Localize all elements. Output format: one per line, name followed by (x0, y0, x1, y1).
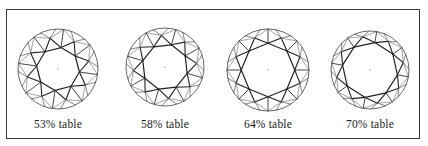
upper-girdle-edge (52, 100, 66, 109)
table-edge (347, 86, 365, 97)
diamond-53-table (18, 29, 98, 109)
upper-girdle-edge (50, 29, 64, 38)
star-facet-edge (185, 56, 196, 64)
bezel-facet-edge (176, 87, 184, 101)
star-facet-edge (27, 66, 36, 77)
table-edge (37, 52, 45, 66)
star-facet-edge (236, 70, 241, 83)
star-facet-edge (55, 90, 66, 99)
star-facet-edge (365, 97, 377, 103)
upper-girdle-edge (245, 36, 255, 38)
star-facet-edge (341, 52, 342, 65)
bezel-facet-edge (287, 89, 297, 99)
star-facet-edge (397, 63, 403, 75)
star-facet-edge (31, 52, 45, 53)
table-edge (386, 75, 397, 93)
star-facet-edge (268, 38, 281, 43)
star-facet-edge (255, 38, 268, 43)
star-facet-edge (45, 38, 50, 51)
label-53-table: 53% table (8, 118, 108, 130)
star-facet-edge (71, 85, 85, 86)
star-facet-edge (61, 42, 74, 48)
table-edge (75, 56, 79, 72)
upper-girdle-edge (18, 71, 27, 77)
upper-girdle-edge (89, 61, 98, 67)
upper-girdle-edge (60, 100, 66, 109)
upper-girdle-edge (28, 42, 31, 53)
bezel-facet-edge (52, 90, 55, 108)
bezel-facet-edge (146, 33, 154, 47)
bezel-facet-edge (375, 32, 377, 43)
bezel-facet-edge (171, 30, 175, 45)
star-facet-edge (42, 90, 55, 96)
upper-girdle-edge (89, 61, 98, 75)
upper-girdle-edge (377, 103, 385, 106)
upper-girdle-edge (334, 77, 337, 85)
center-dot (267, 69, 268, 70)
upper-girdle-edge (50, 29, 56, 38)
star-facet-edge (66, 86, 71, 99)
star-facet-edge (255, 97, 268, 102)
bezel-facet-edge (397, 75, 408, 77)
star-facet-edge (169, 87, 177, 98)
upper-girdle-edge (85, 85, 88, 96)
bezel-facet-edge (26, 82, 41, 93)
star-facet-edge (41, 82, 42, 96)
upper-girdle-edge (363, 103, 377, 108)
upper-girdle-edge (363, 32, 377, 37)
bezel-facet-edge (386, 93, 392, 102)
upper-girdle-edge (245, 102, 255, 104)
table-edge (55, 86, 71, 90)
upper-girdle-edge (354, 34, 362, 37)
table-edge (375, 43, 393, 54)
table-edge (45, 48, 61, 52)
star-facet-edge (27, 77, 40, 82)
upper-girdle-edge (234, 47, 236, 57)
bezel-facet-edge (393, 48, 402, 54)
bezel-facet-edge (131, 78, 145, 86)
upper-girdle-edge (332, 63, 337, 77)
bezel-facet-edge (363, 97, 365, 108)
upper-girdle-edge (234, 83, 236, 93)
bezel-facet-edge (71, 86, 82, 101)
bezel-facet-edge (338, 86, 347, 92)
upper-girdle-edge (403, 54, 406, 62)
bezel-facet-edge (154, 89, 158, 104)
table-edge (145, 78, 159, 89)
star-facet-edge (79, 72, 85, 85)
upper-girdle-edge (281, 36, 291, 38)
star-facet-edge (337, 65, 343, 77)
star-facet-edge (363, 37, 375, 43)
table-edge (61, 48, 75, 56)
table-edge (176, 73, 187, 87)
star-facet-edge (187, 73, 190, 86)
diamond-58-table (126, 28, 204, 106)
bezel-facet-edge (34, 37, 45, 52)
label-58-table: 58% table (115, 118, 215, 130)
bezel-facet-edge (61, 29, 64, 47)
upper-girdle-edge (128, 56, 134, 70)
star-facet-edge (133, 61, 142, 71)
diamond-70-table (331, 31, 409, 109)
table-edge (71, 72, 79, 86)
bezel-facet-edge (128, 56, 143, 60)
star-facet-edge (79, 61, 88, 72)
star-facet-edge (50, 38, 61, 47)
star-facet-edge (145, 89, 158, 92)
upper-girdle-edge (403, 63, 408, 77)
table-edge (37, 66, 41, 82)
bezel-facet-edge (239, 89, 249, 99)
star-facet-edge (159, 89, 169, 98)
center-dot (57, 68, 58, 69)
bezel-facet-edge (287, 41, 297, 51)
label-64-table: 64% table (218, 118, 318, 130)
star-facet-edge (352, 97, 365, 98)
upper-girdle-edge (300, 83, 302, 93)
star-facet-edge (397, 75, 398, 88)
table-edge (171, 45, 185, 56)
upper-girdle-edge (31, 96, 42, 99)
star-facet-edge (75, 56, 88, 61)
table-edge (143, 47, 154, 61)
star-facet-edge (187, 63, 196, 73)
bezel-facet-edge (332, 63, 343, 65)
